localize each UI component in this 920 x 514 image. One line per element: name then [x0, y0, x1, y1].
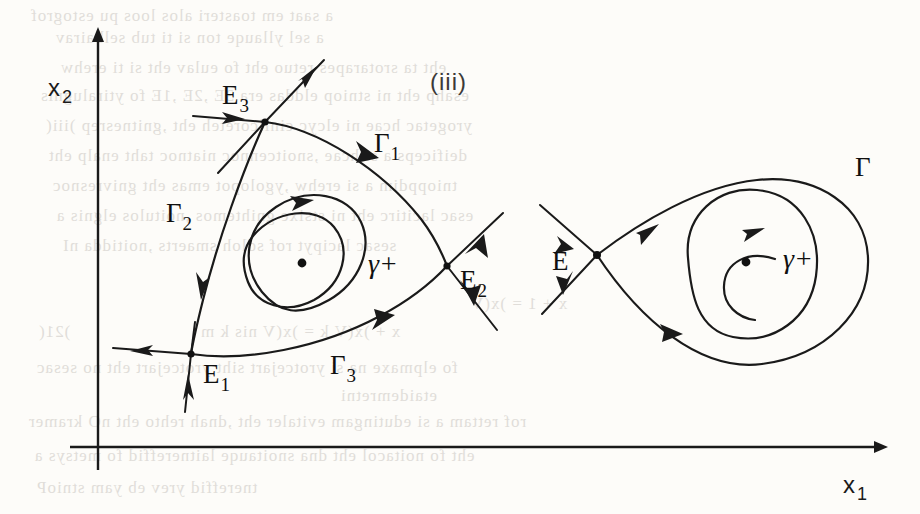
panel-caption: (iii)	[430, 68, 467, 95]
saddle-e3-lower-branch	[218, 122, 265, 173]
periodic-orbit-label-left: γ+	[368, 248, 398, 279]
center-point-right	[742, 258, 751, 267]
homoclinic-loop-upper-arrowhead	[636, 224, 659, 245]
center-point-left	[298, 259, 307, 268]
saddle-point-e2	[443, 262, 450, 269]
saddle-label-e3: E3	[222, 80, 249, 116]
labels-group: (iii) x1 x2 E3 E1 E2 Γ1 Γ2 Γ3 γ+ E Γ γ+	[48, 68, 871, 504]
inner-orbit-left	[244, 213, 344, 307]
saddle-point-e3	[261, 118, 268, 125]
separatrix-gamma2-path	[191, 122, 265, 354]
saddle-label-e: E	[552, 246, 569, 276]
homoclinic-loop-label-gamma: Γ	[855, 152, 871, 182]
scanned-figure-page: a saat em toasteri alos loos pu estogrof…	[0, 0, 920, 514]
phase-portrait-figure: (iii) x1 x2 E3 E1 E2 Γ1 Γ2 Γ3 γ+ E Γ γ+	[0, 0, 920, 514]
y-axis-arrowhead	[92, 27, 104, 42]
saddle-e1-stable-arrowhead	[183, 374, 194, 400]
right-panel-group	[540, 179, 868, 365]
inner-orbit-right-arrowhead	[742, 228, 765, 242]
separatrix-label-gamma3: Γ3	[330, 350, 356, 386]
periodic-orbit-label-right: γ+	[783, 243, 813, 274]
saddle-point-e	[593, 251, 601, 259]
periodic-orbit-gamma-plus-left-arrowhead	[290, 196, 314, 211]
x-axis-label: x1	[843, 471, 867, 504]
saddle-label-e1: E1	[203, 359, 230, 395]
saddle-e-unstable-branch-lower-left	[542, 255, 597, 314]
y-axis-label: x2	[48, 74, 72, 107]
inner-spiral-tail-right	[724, 256, 775, 320]
separatrix-label-gamma2: Γ2	[166, 198, 192, 234]
saddle-point-e1	[187, 350, 194, 357]
homoclinic-loop-lower-arrowhead	[660, 324, 683, 342]
separatrix-label-gamma1: Γ1	[374, 128, 400, 164]
saddle-e1-unstable-branch	[113, 348, 191, 354]
x-axis-arrowhead	[874, 441, 888, 453]
separatrix-gamma1-path	[265, 122, 447, 266]
saddle-e2-stable-branch	[447, 213, 503, 266]
separatrix-gamma3-path	[191, 266, 447, 356]
left-panel-group	[113, 60, 503, 412]
